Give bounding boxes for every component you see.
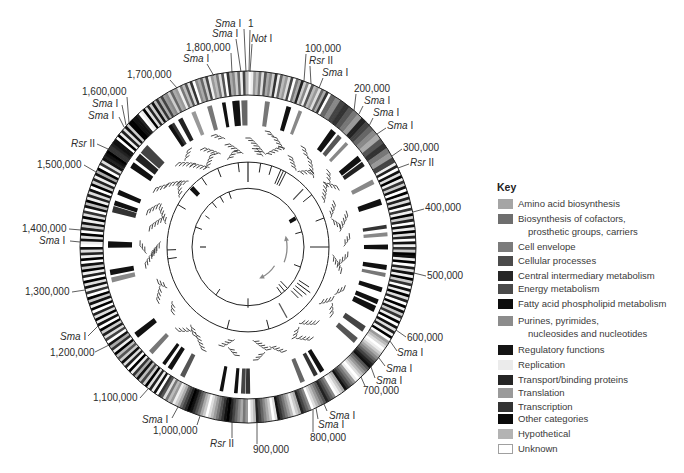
- genome-map-figure: SmaI1SmaINotI1,800,000SmaI100,000RsrIISm…: [0, 0, 684, 473]
- gene-cluster: [200, 148, 221, 155]
- gene-bar: [280, 106, 291, 131]
- label-text: SmaI: [386, 363, 412, 374]
- label-main: 700,000: [363, 385, 400, 396]
- restriction-site-label: NotI: [250, 33, 272, 72]
- leader-line: [69, 229, 81, 230]
- label-main: Sma: [88, 110, 109, 121]
- label-text: SmaI: [183, 53, 209, 64]
- restriction-site-label: RsrII: [398, 157, 434, 168]
- label-text: 1,700,000: [127, 69, 172, 80]
- leader-line: [244, 29, 246, 72]
- gene-bar: [241, 368, 246, 393]
- label-main: Rsr: [309, 55, 325, 66]
- label-main: 100,000: [305, 43, 342, 54]
- gene-cluster: [185, 148, 192, 161]
- label-text: SmaI: [88, 110, 114, 121]
- label-main: Sma: [373, 107, 394, 118]
- gene-cluster: [159, 204, 166, 224]
- gene-cluster: [195, 332, 206, 351]
- leader-line: [207, 64, 214, 76]
- leader-line: [316, 408, 318, 419]
- inner-tick: [295, 286, 306, 295]
- label-text: SmaI: [397, 347, 423, 358]
- label-main: Rsr: [210, 438, 226, 449]
- leader-line: [379, 358, 385, 366]
- label-text: SmaI: [364, 95, 390, 106]
- label-text: 1,000,000: [153, 425, 198, 436]
- gene-cluster: [189, 164, 209, 170]
- leader-line: [236, 39, 241, 72]
- label-main: 900,000: [253, 444, 290, 455]
- inner-tick: [293, 189, 303, 199]
- inner-tick: [202, 177, 207, 185]
- label-suffix: I: [63, 235, 66, 246]
- leader-line: [170, 80, 177, 88]
- label-text: 400,000: [425, 202, 462, 213]
- gene-cluster: [253, 340, 272, 350]
- gene-bar: [246, 369, 250, 394]
- label-main: 1,800,000: [186, 42, 231, 53]
- leader-line: [414, 273, 426, 276]
- gene-cluster: [344, 233, 350, 246]
- genome-position-label: 900,000: [253, 423, 290, 455]
- label-text: SmaI: [373, 107, 399, 118]
- gene-bar: [207, 105, 218, 130]
- restriction-site-label: RsrII: [71, 138, 108, 149]
- label-text: 1,600,000: [82, 86, 127, 97]
- label-main: Sma: [212, 28, 233, 39]
- label-suffix: I: [400, 375, 403, 386]
- label-suffix: I: [353, 410, 356, 421]
- leader-line: [249, 30, 250, 71]
- leader-line: [413, 209, 424, 212]
- gene-cluster: [288, 155, 296, 170]
- leader-line: [396, 330, 406, 337]
- restriction-site-label: SmaI: [39, 235, 80, 246]
- leader-line: [377, 128, 386, 134]
- gene-bar: [168, 347, 185, 370]
- label-suffix: I: [207, 53, 210, 64]
- gene-cluster: [211, 135, 225, 140]
- gene-cluster: [157, 279, 167, 288]
- label-main: 1: [248, 18, 254, 29]
- gene-bar: [191, 111, 204, 136]
- label-main: 800,000: [310, 432, 347, 443]
- restriction-site-label: SmaI: [183, 53, 214, 76]
- arrowhead-icon: [284, 236, 289, 242]
- inner-tick: [227, 320, 229, 329]
- gene-cluster: [330, 200, 336, 217]
- gene-cluster: [145, 246, 157, 269]
- gene-cluster: [140, 240, 147, 253]
- label-text: SmaI: [60, 331, 86, 342]
- inner-tick: [220, 196, 224, 202]
- label-text: 1,200,000: [50, 347, 95, 358]
- label-text: 800,000: [310, 432, 347, 443]
- label-main: 1,600,000: [82, 86, 127, 97]
- label-text: 500,000: [427, 270, 464, 281]
- gene-cluster: [335, 285, 346, 294]
- label-suffix: I: [421, 347, 424, 358]
- gene-cluster: [292, 327, 299, 339]
- label-main: Sma: [386, 363, 407, 374]
- label-main: Sma: [318, 419, 339, 430]
- label-text: RsrII: [210, 438, 234, 449]
- gene-cluster: [175, 328, 192, 332]
- second-gene-ring: [108, 100, 388, 393]
- genome-position-label: 400,000: [413, 202, 462, 213]
- gene-bar: [149, 333, 169, 354]
- label-main: 1,000,000: [153, 425, 198, 436]
- label-main: Not: [251, 33, 268, 44]
- inner-tick: [279, 303, 287, 318]
- label-suffix: I: [410, 363, 413, 374]
- label-main: Sma: [39, 235, 60, 246]
- gene-bar: [358, 281, 382, 293]
- label-text: 1: [248, 18, 254, 29]
- leader-line: [324, 404, 327, 411]
- leader-line: [398, 164, 409, 168]
- label-text: 600,000: [407, 332, 444, 343]
- label-main: 1,400,000: [22, 223, 67, 234]
- leader-line: [84, 165, 96, 172]
- label-suffix: II: [90, 138, 96, 149]
- inner-tick: [297, 283, 310, 293]
- label-suffix: I: [397, 107, 400, 118]
- label-text: 900,000: [253, 444, 290, 455]
